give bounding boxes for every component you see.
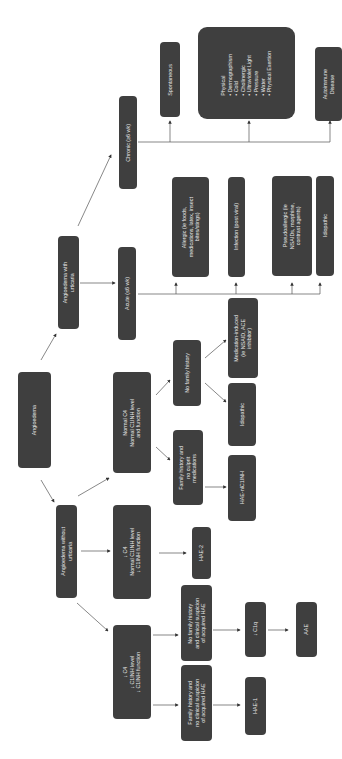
node-low-c1q: ↓ C1q xyxy=(245,602,266,657)
node-autoimmune: Autoimmune Disease xyxy=(315,47,342,121)
node-angioedema-with-urticaria: Angioedema with urticaria xyxy=(58,236,79,329)
node-label: Chronic (≥6 wk) xyxy=(125,124,132,162)
node-physical: Physical • Dermographism • Cold • Cholin… xyxy=(198,27,295,119)
node-label: Spontaneous xyxy=(167,64,174,96)
node-label: Angioedema xyxy=(31,405,38,435)
node-hae-nlc1inh: HAE-nlC1INH xyxy=(228,455,256,521)
node-label: Idiopathic xyxy=(322,214,329,237)
node-label: Acute (≤6 wk) xyxy=(124,277,131,310)
node-label: Idiopathic xyxy=(239,403,246,426)
node-label: Angioedema with urticaria xyxy=(62,262,75,303)
node-no-family-history-acquired: No family history and clinical suspicion… xyxy=(181,585,212,661)
node-label: ↓ C1q xyxy=(252,622,259,636)
node-label: No family history xyxy=(184,353,191,393)
node-label: Autoimmune Disease xyxy=(322,69,335,99)
node-acute: Acute (≤6 wk) xyxy=(118,247,136,340)
node-family-history-no-culprit: Family history and no culprit medication… xyxy=(173,430,203,505)
node-label: ↓ C4 ↓ C1INH level ↓ C1INH function xyxy=(122,652,142,693)
node-label: HAE-nlC1INH xyxy=(239,471,246,504)
node-angioedema: Angioedema xyxy=(18,372,51,468)
node-medication-induced: Medication-induced (ie NSAID, ACE inhibi… xyxy=(228,298,258,378)
node-label: Pseudoallergic (ie NSAIDs, morphine, con… xyxy=(282,203,302,249)
node-label: Allergic (ie foods, medications, latex, … xyxy=(181,197,201,257)
node-label: HAE-1 xyxy=(252,698,259,714)
node-aae: AAE xyxy=(296,602,317,657)
node-label: Physical • Dermographism • Cold • Cholin… xyxy=(220,51,273,96)
node-low-c4-low-c1inh: ↓ C4 ↓ C1INH level ↓ C1INH function xyxy=(113,625,151,719)
node-allergic: Allergic (ie foods, medications, latex, … xyxy=(172,177,209,277)
node-low-c4-normal-c1inh: ↓ C4 Normal C1INH level ↓ C1INH function xyxy=(113,505,151,599)
node-normal-c4: Normal C4 Normal C1INH level and functio… xyxy=(113,372,151,473)
node-label: HAE-2 xyxy=(198,545,205,561)
node-family-history-no-acquired: Family history and no clinical suspicion… xyxy=(181,665,212,741)
node-spontaneous: Spontaneous xyxy=(160,42,180,117)
node-idiopathic-normal: Idiopathic xyxy=(228,383,256,446)
node-pseudoallergic: Pseudoallergic (ie NSAIDs, morphine, con… xyxy=(272,176,312,276)
node-idiopathic-acute: Idiopathic xyxy=(316,176,334,276)
node-label: No family history and clinical suspicion… xyxy=(187,598,207,649)
node-hae-2: HAE-2 xyxy=(192,527,211,579)
node-label: Angioedema without urticaria xyxy=(60,527,73,576)
node-label: Family history and no culprit medication… xyxy=(178,446,198,490)
node-label: ↓ C4 Normal C1INH level ↓ C1INH function xyxy=(122,528,142,576)
node-hae-1: HAE-1 xyxy=(245,677,266,735)
node-infection: Infection (post viral) xyxy=(228,177,245,277)
node-label: AAE xyxy=(303,624,310,635)
node-label: Normal C4 Normal C1INH level and functio… xyxy=(122,399,142,447)
node-label: Family history and no clinical suspicion… xyxy=(187,679,207,727)
node-chronic: Chronic (≥6 wk) xyxy=(119,96,137,189)
node-angioedema-without-urticaria: Angioedema without urticaria xyxy=(56,505,77,598)
node-label: Infection (post viral) xyxy=(233,203,240,250)
node-no-family-history: No family history xyxy=(173,340,201,406)
node-label: Medication-induced (ie NSAID, ACE inhibi… xyxy=(233,315,253,362)
